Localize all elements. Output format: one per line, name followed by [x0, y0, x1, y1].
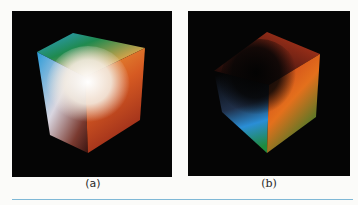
figure-bottom-rule: [12, 199, 353, 200]
figure-panel-b: [188, 11, 350, 176]
color-cube-black-corner-image: [188, 11, 350, 176]
panel-a-caption: (a): [73, 177, 113, 190]
figure-panel-a: [12, 11, 172, 177]
color-cube-white-corner-image: [12, 11, 172, 177]
panel-b-caption: (b): [249, 177, 289, 190]
